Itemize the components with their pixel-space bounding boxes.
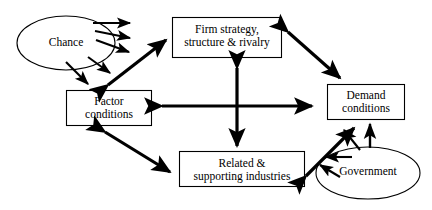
- node-box-factor-conditions: [67, 91, 152, 126]
- edge-government-fan-1: [344, 130, 360, 150]
- diagram-canvas: Firm strategy, structure & rivalry Facto…: [0, 0, 432, 210]
- diagram-graphics: [0, 0, 432, 210]
- node-ellipse-chance: [17, 16, 115, 70]
- edge-factor-to-related: [105, 132, 170, 172]
- edge-firm-strategy-to-demand: [288, 32, 340, 78]
- node-box-related-industries: [180, 152, 305, 187]
- node-box-firm-strategy: [173, 18, 282, 58]
- node-box-demand-conditions: [328, 85, 405, 120]
